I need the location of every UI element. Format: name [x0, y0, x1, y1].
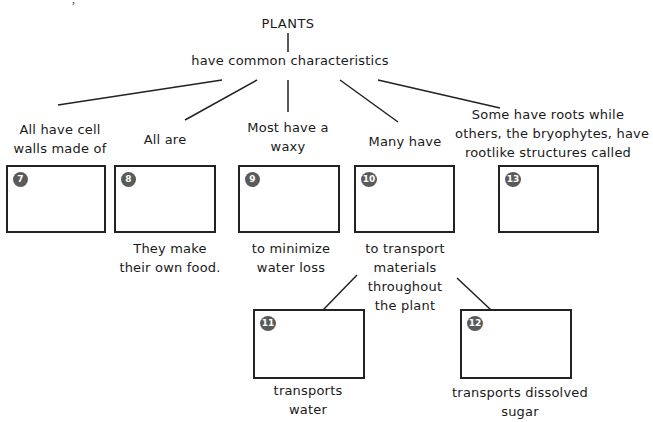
note-transport: to transport materials throughout the pl…	[355, 239, 455, 315]
prompt-many-have: Many have	[360, 132, 450, 151]
note-line: transports dissolved	[445, 383, 595, 402]
note-line: water	[258, 400, 358, 419]
note-line: to minimize	[236, 239, 346, 258]
answer-box-12[interactable]: 12	[460, 309, 572, 379]
answer-box-13[interactable]: 13	[498, 165, 599, 233]
note-line: sugar	[445, 402, 595, 421]
number-badge: 10	[361, 172, 377, 187]
prompt-roots: Some have roots while others, the bryoph…	[455, 105, 641, 162]
answer-box-7[interactable]: 7	[6, 165, 106, 233]
note-own-food: They make their own food.	[110, 239, 230, 277]
prompt-cell-walls: All have cell walls made of	[0, 120, 120, 158]
answer-box-9[interactable]: 9	[238, 165, 340, 233]
note-line: to transport	[355, 239, 455, 258]
number-badge: 7	[13, 172, 28, 187]
note-transports-water: transports water	[258, 381, 358, 419]
prompt-line: Many have	[360, 132, 450, 151]
answer-box-11[interactable]: 11	[253, 309, 365, 379]
prompt-line: All are	[130, 130, 200, 149]
note-line: They make	[110, 239, 230, 258]
prompt-all-are: All are	[130, 130, 200, 149]
prompt-waxy: Most have a waxy	[238, 118, 338, 156]
note-line: their own food.	[110, 258, 230, 277]
link-phrase: have common characteristics	[180, 51, 400, 70]
note-water-loss: to minimize water loss	[236, 239, 346, 277]
note-transports-sugar: transports dissolved sugar	[445, 383, 595, 421]
prompt-line: Some have roots while	[455, 105, 641, 124]
prompt-line: rootlike structures called	[455, 143, 641, 162]
number-badge: 8	[121, 172, 136, 187]
number-badge: 12	[467, 316, 483, 331]
note-line: water loss	[236, 258, 346, 277]
prompt-line: waxy	[238, 137, 338, 156]
prompt-line: All have cell	[0, 120, 120, 139]
number-badge: 11	[260, 316, 276, 331]
note-line: the plant	[355, 296, 455, 315]
number-badge: 9	[245, 172, 260, 187]
note-line: materials	[355, 258, 455, 277]
note-line: throughout	[355, 277, 455, 296]
number-badge: 13	[505, 172, 521, 187]
root-concept: PLANTS	[248, 14, 328, 33]
answer-box-10[interactable]: 10	[354, 165, 455, 233]
prompt-line: others, the bryophytes, have	[455, 124, 641, 143]
note-line: transports	[258, 381, 358, 400]
prompt-line: Most have a	[238, 118, 338, 137]
prompt-line: walls made of	[0, 139, 120, 158]
answer-box-8[interactable]: 8	[114, 165, 216, 233]
